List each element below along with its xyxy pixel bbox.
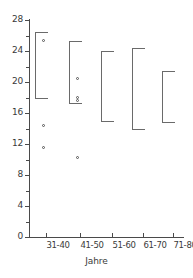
plot-area: 0481216202428 31-4041-5051-6061-7071-80 … [0, 0, 193, 278]
x-axis-line [29, 237, 184, 238]
y-tick-major [25, 113, 29, 114]
y-tick-label: 0 [0, 232, 23, 241]
y-tick-minor [26, 160, 29, 161]
range-bracket [132, 48, 145, 130]
y-tick-major [25, 51, 29, 52]
x-tick [173, 233, 174, 238]
x-axis-title: Jahre [0, 256, 193, 266]
y-tick-label: 12 [0, 139, 23, 148]
y-tick-label: 20 [0, 77, 23, 86]
y-tick-label-text: 24 [0, 46, 23, 55]
data-point [42, 124, 45, 127]
y-axis-line [29, 19, 30, 238]
x-tick [80, 233, 81, 238]
y-tick-label: 16 [0, 108, 23, 117]
y-tick-major [25, 237, 29, 238]
x-tick [143, 233, 144, 238]
y-tick-label-text: 4 [0, 201, 23, 210]
x-tick [112, 233, 113, 238]
chart-container: 0481216202428 31-4041-5051-6061-7071-80 … [0, 0, 193, 278]
y-tick-label: 4 [0, 201, 23, 210]
y-tick-major [25, 144, 29, 145]
y-tick-major [25, 206, 29, 207]
y-tick-minor [26, 222, 29, 223]
data-point [76, 156, 79, 159]
y-tick-minor [26, 36, 29, 37]
x-tick [46, 233, 47, 238]
y-tick-minor [26, 98, 29, 99]
data-point [76, 99, 79, 102]
range-bracket [101, 51, 114, 122]
y-tick-label: 8 [0, 170, 23, 179]
y-tick-major [25, 82, 29, 83]
x-tick-label: 71-80 [173, 240, 193, 250]
y-tick-label-text: 20 [0, 77, 23, 86]
y-tick-label-text: 12 [0, 139, 23, 148]
y-tick-major [25, 20, 29, 21]
x-tick-label: 31-40 [46, 240, 69, 250]
y-tick-label: 24 [0, 46, 23, 55]
range-bracket [162, 71, 175, 123]
y-tick-label-text: 28 [0, 15, 23, 24]
x-tick-label: 61-70 [143, 240, 166, 250]
y-tick-minor [26, 191, 29, 192]
data-point [42, 146, 45, 149]
x-tick-label: 41-50 [80, 240, 103, 250]
y-tick-major [25, 175, 29, 176]
x-tick-label: 51-60 [112, 240, 135, 250]
y-tick-label-text: 0 [0, 232, 23, 241]
y-tick-minor [26, 129, 29, 130]
range-bracket [35, 32, 48, 99]
y-tick-label-text: 16 [0, 108, 23, 117]
y-tick-minor [26, 67, 29, 68]
range-bracket [69, 41, 82, 104]
y-tick-label-text: 8 [0, 170, 23, 179]
y-tick-label: 28 [0, 15, 23, 24]
